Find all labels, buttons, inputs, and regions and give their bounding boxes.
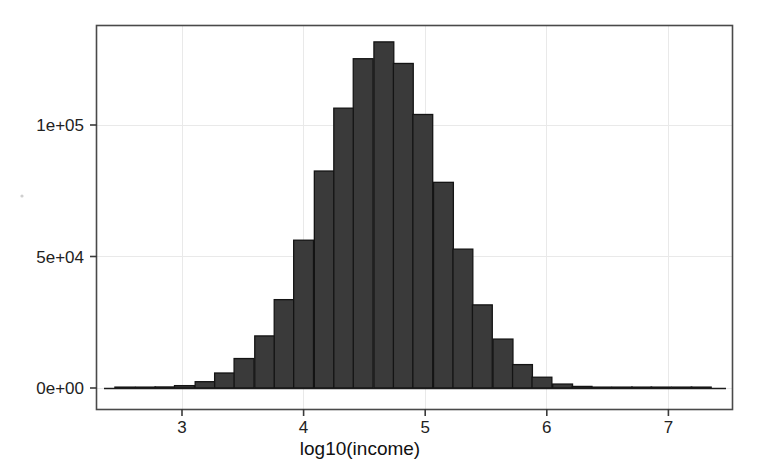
- y-tick-label: 1e+05: [36, 116, 84, 135]
- histogram-bar: [493, 339, 513, 388]
- scan-artifact-speck: [20, 194, 23, 197]
- y-tick-label: 5e+04: [36, 248, 84, 267]
- histogram-bar: [553, 384, 573, 388]
- histogram-bar: [314, 171, 334, 388]
- histogram-bar: [255, 336, 275, 388]
- x-tick-label: 7: [664, 418, 673, 437]
- histogram-bar: [374, 42, 394, 388]
- histogram-bar: [215, 373, 235, 388]
- histogram-bar: [195, 382, 215, 388]
- histogram-bar: [234, 359, 254, 388]
- histogram-bar: [472, 305, 492, 388]
- x-axis-title: log10(income): [300, 438, 420, 459]
- histogram-bar: [453, 249, 473, 388]
- histogram-bar: [393, 63, 413, 388]
- histogram-bar: [274, 300, 294, 388]
- x-tick-label: 4: [299, 418, 308, 437]
- histogram-bar: [413, 114, 433, 388]
- x-tick-label: 5: [420, 418, 429, 437]
- x-tick-label: 6: [542, 418, 551, 437]
- histogram-plot: 34567 0e+005e+041e+05 log10(income): [0, 0, 768, 471]
- histogram-bar: [513, 365, 533, 388]
- histogram-bar: [353, 59, 373, 388]
- histogram-bar: [294, 240, 314, 388]
- x-tick-label: 3: [177, 418, 186, 437]
- histogram-figure: 34567 0e+005e+041e+05 log10(income): [0, 0, 768, 471]
- y-tick-label: 0e+00: [36, 379, 84, 398]
- histogram-bar: [175, 386, 195, 388]
- histogram-bar: [334, 108, 354, 388]
- histogram-bar: [434, 182, 454, 388]
- histogram-bar: [532, 377, 552, 388]
